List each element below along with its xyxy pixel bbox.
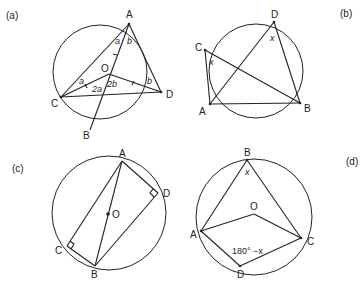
label-o: O [112,209,120,220]
point-b [299,102,302,105]
radius-oc [254,214,301,238]
label-o: O [101,63,109,74]
point-d [160,91,163,94]
panel-d-label: (d) [346,156,358,167]
diameter-ab [90,24,129,130]
radius-oa [201,214,254,231]
circle-theorems-figure: (a) A C D B O a b a b 2a 2b (b) [0,0,362,292]
angle-b-right: b [147,76,152,86]
label-d: D [237,269,244,280]
angle-a-top: a [115,36,120,46]
label-c: C [55,245,62,256]
label-o: O [250,201,258,212]
label-d: D [166,89,173,100]
segment-cd [61,92,161,97]
angle-b-top: b [127,36,132,46]
point-b [246,159,249,162]
panel-a-circle [53,25,147,119]
label-d: D [163,188,170,199]
segment-ac [67,161,122,246]
point-c [204,49,207,52]
panel-c-label: (c) [12,163,24,174]
label-c: C [195,42,202,53]
panel-d: (d) B A C D O x 180° −x [190,147,358,280]
segment-bc [247,160,301,238]
segment-ba [201,160,247,231]
label-a: A [190,229,197,240]
panel-a-label: (a) [6,10,18,21]
panel-a: (a) A C D B O a b a b 2a 2b [6,9,173,141]
panel-c: (c) A B C D O [12,148,170,280]
point-a [209,103,212,106]
label-b: B [83,130,90,141]
panel-b-label: (b) [340,8,352,19]
angle-x-b: x [244,167,250,177]
label-b: B [91,269,98,280]
point-a [200,230,203,233]
tick-oa [113,54,117,55]
point-a [128,23,131,26]
angle-a-left: a [79,76,84,86]
label-c: C [307,236,314,247]
angle-180-minus-x: 180° −x [232,246,263,256]
point-o [106,212,110,216]
panel-b: (b) A B C D x x [195,8,352,118]
label-c: C [51,98,58,109]
segment-ab [210,103,300,104]
angle-x-c: x [208,57,214,67]
label-b: B [304,103,311,114]
point-c [300,237,303,240]
angle-2a: 2a [91,84,102,94]
panel-d-circle [196,159,312,275]
label-b: B [244,147,251,158]
point-d [239,265,242,268]
segment-ad [210,22,274,104]
right-angle-d [150,189,154,197]
angle-2b: 2b [106,79,117,89]
angle-x-d: x [269,33,275,43]
point-d [273,21,276,24]
point-c [60,96,63,99]
label-d: D [271,9,278,20]
label-a: A [199,106,206,117]
label-a: A [126,9,133,20]
label-a: A [119,148,126,159]
right-angle-c [70,241,74,249]
